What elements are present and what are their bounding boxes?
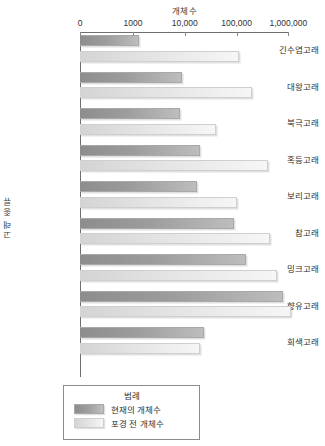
legend-swatch-prewhaling — [74, 418, 104, 428]
x-axis-tick-labels: 0100010,000100,0001,000,000 — [0, 18, 325, 30]
chart-title: 개체수 — [0, 4, 325, 16]
bar-prewhaling-5 — [80, 233, 270, 244]
bar-prewhaling-0 — [80, 51, 239, 62]
bar-current-6 — [80, 254, 246, 265]
x-tick-mark-0 — [80, 32, 81, 36]
whale-population-chart: 개체수 0100010,000100,0001,000,000 고래 종류 긴수… — [0, 0, 325, 446]
bar-prewhaling-4 — [80, 197, 237, 208]
x-tick-label-2: 10,000 — [172, 18, 198, 28]
x-tick-label-4: 1,000,000 — [269, 18, 307, 28]
x-tick-mark-3 — [237, 32, 238, 36]
legend-label-current: 현재의 개체수 — [111, 403, 161, 415]
x-tick-mark-4 — [288, 32, 289, 36]
bar-prewhaling-1 — [80, 87, 252, 98]
legend-swatch-current — [74, 404, 104, 414]
bar-current-8 — [80, 327, 204, 338]
chart-title-text: 개체수 — [172, 6, 197, 16]
bar-current-7 — [80, 291, 283, 302]
bar-current-3 — [80, 145, 200, 156]
chart-legend: 범례 현재의 개체수 포경 전 개체수 — [63, 385, 200, 440]
x-tick-label-0: 0 — [78, 18, 83, 28]
bar-prewhaling-3 — [80, 160, 268, 171]
bar-prewhaling-8 — [80, 343, 200, 354]
bar-current-0 — [80, 35, 139, 46]
x-tick-mark-2 — [185, 32, 186, 36]
x-tick-mark-1 — [133, 32, 134, 36]
x-tick-label-3: 100,000 — [221, 18, 252, 28]
plot-area — [80, 32, 325, 377]
bar-current-5 — [80, 218, 234, 229]
legend-label-prewhaling: 포경 전 개체수 — [111, 417, 164, 429]
bar-current-1 — [80, 72, 182, 83]
y-axis-title: 고래 종류 — [2, 196, 14, 239]
legend-title: 범례 — [64, 389, 199, 401]
legend-item-current: 현재의 개체수 — [74, 403, 199, 415]
legend-item-prewhaling: 포경 전 개체수 — [74, 417, 199, 429]
bar-prewhaling-7 — [80, 306, 291, 317]
x-tick-label-1: 1000 — [124, 18, 143, 28]
bar-prewhaling-6 — [80, 270, 277, 281]
bar-current-2 — [80, 108, 180, 119]
bar-current-4 — [80, 181, 197, 192]
bar-prewhaling-2 — [80, 124, 216, 135]
